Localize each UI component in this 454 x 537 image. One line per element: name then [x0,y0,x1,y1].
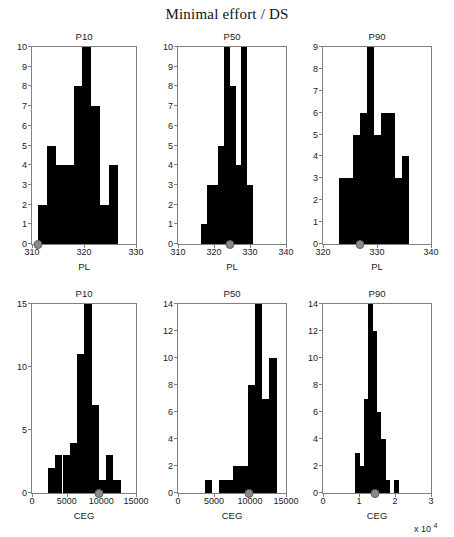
histogram-bar [346,178,353,244]
y-axis-label: 9 [313,43,318,52]
y-axis-tick [319,199,323,200]
histogram-bar [395,178,402,244]
x-axis-label: 330 [369,248,384,257]
y-axis-tick [174,164,178,165]
y-axis-tick [174,223,178,224]
panel-title: P10 [31,31,137,42]
x-axis-label: 0 [320,497,325,506]
bars-group [32,304,136,493]
y-axis-label: 3 [22,180,27,189]
plot-area: 012345678910310320330340 [177,46,287,245]
y-axis-tick [28,145,32,146]
x-axis-label: 5000 [57,497,77,506]
x-axis-name: PL [322,261,432,272]
histogram-bar [47,146,56,245]
x-axis-name: PL [31,261,137,272]
histogram-bar [381,113,388,244]
y-axis-label: 4 [168,161,173,170]
y-axis-label: 4 [313,152,318,161]
histogram-bar [233,466,240,493]
histogram-bar [247,185,253,244]
histogram-bar [386,480,390,494]
y-axis-tick [319,357,323,358]
y-axis-label: 8 [22,82,27,91]
histogram-bar [100,205,109,244]
x-axis-label: 2 [392,497,397,506]
bars-group [32,47,136,244]
y-axis-label: 14 [308,300,318,309]
reference-marker-dot [225,240,234,249]
y-axis-tick [174,330,178,331]
y-axis-label: 6 [168,121,173,130]
histogram-panel-1: P10012345678910310320330PL [31,46,137,245]
x-axis-label: 310 [24,248,39,257]
panel-title: P10 [31,288,137,299]
y-axis-tick [174,125,178,126]
y-axis-tick [28,105,32,106]
y-axis-tick [319,46,323,47]
y-axis-tick [28,303,32,304]
histogram-panel-2: P50012345678910310320330340PL [177,46,287,245]
y-axis-tick [319,303,323,304]
y-axis-label: 5 [22,426,27,435]
y-axis-tick [28,164,32,165]
y-axis-tick [319,134,323,135]
reference-marker-dot [94,489,103,498]
reference-marker-dot [245,489,254,498]
y-axis-tick [174,303,178,304]
y-axis-tick [28,66,32,67]
histogram-bar [367,47,374,244]
y-axis-label: 10 [308,354,318,363]
histogram-bar [339,178,346,244]
x-axis-label: 320 [206,248,221,257]
x-axis-label: 3 [428,497,433,506]
histogram-bar [402,156,409,244]
x-axis-label: 340 [423,248,438,257]
y-axis-label: 8 [313,381,318,390]
y-axis-tick [174,357,178,358]
histogram-bar [219,480,226,494]
x-axis-label: 10000 [237,497,262,506]
y-axis-tick [174,105,178,106]
y-axis-tick [319,411,323,412]
y-axis-tick [174,204,178,205]
x-axis-label: 5000 [204,497,224,506]
y-axis-label: 5 [168,141,173,150]
y-axis-label: 0 [168,489,173,498]
y-axis-tick [28,125,32,126]
y-axis-tick [174,438,178,439]
y-axis-tick [174,184,178,185]
y-axis-tick [174,465,178,466]
x-axis-label: 320 [76,248,91,257]
histogram-bar [91,106,100,244]
histogram-panel-4: P10051015050001000015000CEG [31,303,137,494]
y-axis-label: 7 [168,102,173,111]
x-axis-label: 15000 [123,497,148,506]
histogram-bar [55,455,62,493]
plot-area: 012345678910310320330 [31,46,137,245]
bars-group [178,47,286,244]
reference-marker-dot [356,240,365,249]
x-axis-label: 10000 [89,497,114,506]
plot-area: 051015050001000015000 [31,303,137,494]
y-axis-label: 3 [313,174,318,183]
y-axis-tick [174,46,178,47]
y-axis-tick [28,429,32,430]
y-axis-label: 4 [22,161,27,170]
y-axis-tick [28,85,32,86]
x-axis-label: 330 [128,248,143,257]
histogram-bar [353,135,360,244]
y-axis-label: 8 [168,381,173,390]
y-axis-label: 7 [22,102,27,111]
y-axis-tick [319,68,323,69]
panel-title: P50 [177,288,287,299]
x-axis-name: PL [177,261,287,272]
histogram-bar [269,358,276,493]
histogram-bar [84,304,91,493]
y-axis-tick [28,223,32,224]
x-axis-label: 0 [29,497,34,506]
histogram-bar [360,113,367,244]
bars-group [323,47,431,244]
y-axis-label: 1 [22,220,27,229]
y-axis-label: 1 [168,220,173,229]
